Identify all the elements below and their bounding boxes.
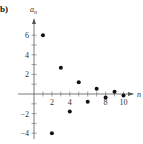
- y-tick-label: −2: [20, 110, 29, 119]
- y-axis-arrow-icon: [32, 18, 36, 24]
- x-axis-label: n: [137, 90, 141, 99]
- y-tick-label: 6: [25, 31, 29, 40]
- data-point: [113, 90, 117, 94]
- y-tick-label: 4: [25, 51, 29, 60]
- data-point: [122, 94, 126, 98]
- data-point: [59, 66, 63, 70]
- data-point: [50, 131, 54, 135]
- data-point: [41, 33, 45, 37]
- y-axis-label: an: [30, 5, 37, 15]
- x-tick-label: 10: [120, 98, 128, 107]
- data-points: [41, 33, 126, 135]
- ticks: [32, 35, 124, 133]
- tick-labels: 642−2−424810: [20, 31, 127, 138]
- x-tick-label: 2: [50, 98, 54, 107]
- chart-svg: b) 642−2−424810 an n: [0, 0, 143, 144]
- y-tick-label: 2: [25, 70, 29, 79]
- x-axis-arrow-icon: [128, 92, 134, 96]
- panel-label: b): [0, 4, 8, 14]
- data-point: [68, 109, 72, 113]
- data-point: [77, 80, 81, 84]
- x-tick-label: 4: [68, 98, 72, 107]
- y-tick-label: −4: [20, 129, 29, 138]
- data-point: [104, 95, 108, 99]
- data-point: [86, 100, 90, 104]
- axes: [18, 18, 134, 139]
- data-point: [95, 87, 99, 91]
